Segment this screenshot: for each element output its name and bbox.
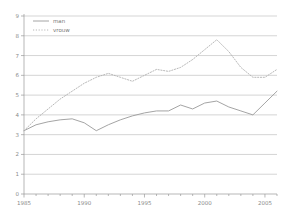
y-tick-label: 7 xyxy=(16,53,20,59)
x-tick-label: 2000 xyxy=(198,200,212,206)
x-tick-label: 1990 xyxy=(77,200,91,206)
chart-background xyxy=(0,0,283,216)
y-tick-label: 5 xyxy=(16,92,20,98)
x-tick-label: 2005 xyxy=(258,200,272,206)
y-tick-label: 8 xyxy=(16,33,20,39)
y-tick-label: 3 xyxy=(16,132,20,138)
line-chart: 0123456789 19851990199520002005 manvrouw xyxy=(0,0,283,216)
x-tick-label: 1995 xyxy=(137,200,151,206)
y-tick-label: 4 xyxy=(16,112,20,118)
y-tick-label: 9 xyxy=(16,13,20,19)
y-tick-label: 1 xyxy=(16,171,20,177)
legend-label-man: man xyxy=(53,18,66,24)
y-tick-label: 6 xyxy=(16,72,20,78)
y-tick-label: 2 xyxy=(16,151,20,157)
legend-label-vrouw: vrouw xyxy=(53,27,70,33)
chart-canvas: 0123456789 19851990199520002005 manvrouw xyxy=(0,0,283,216)
x-tick-label: 1985 xyxy=(17,200,31,206)
y-tick-label: 0 xyxy=(16,191,20,197)
